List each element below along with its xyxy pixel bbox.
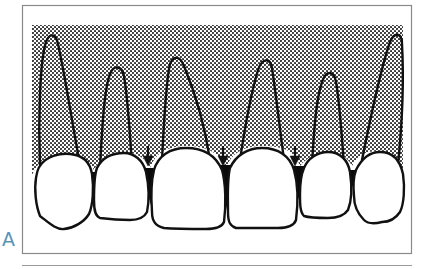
crown-tooth-5 <box>300 152 351 218</box>
crown-tooth-3 <box>151 148 225 229</box>
crown-tooth-2 <box>94 153 148 220</box>
crown-tooth-6 <box>353 152 404 223</box>
teeth-illustration <box>0 0 429 269</box>
panel-label: A <box>2 230 15 249</box>
crown-tooth-1 <box>35 154 93 229</box>
dental-figure-panel: A <box>0 0 429 269</box>
crown-tooth-4 <box>228 148 297 228</box>
